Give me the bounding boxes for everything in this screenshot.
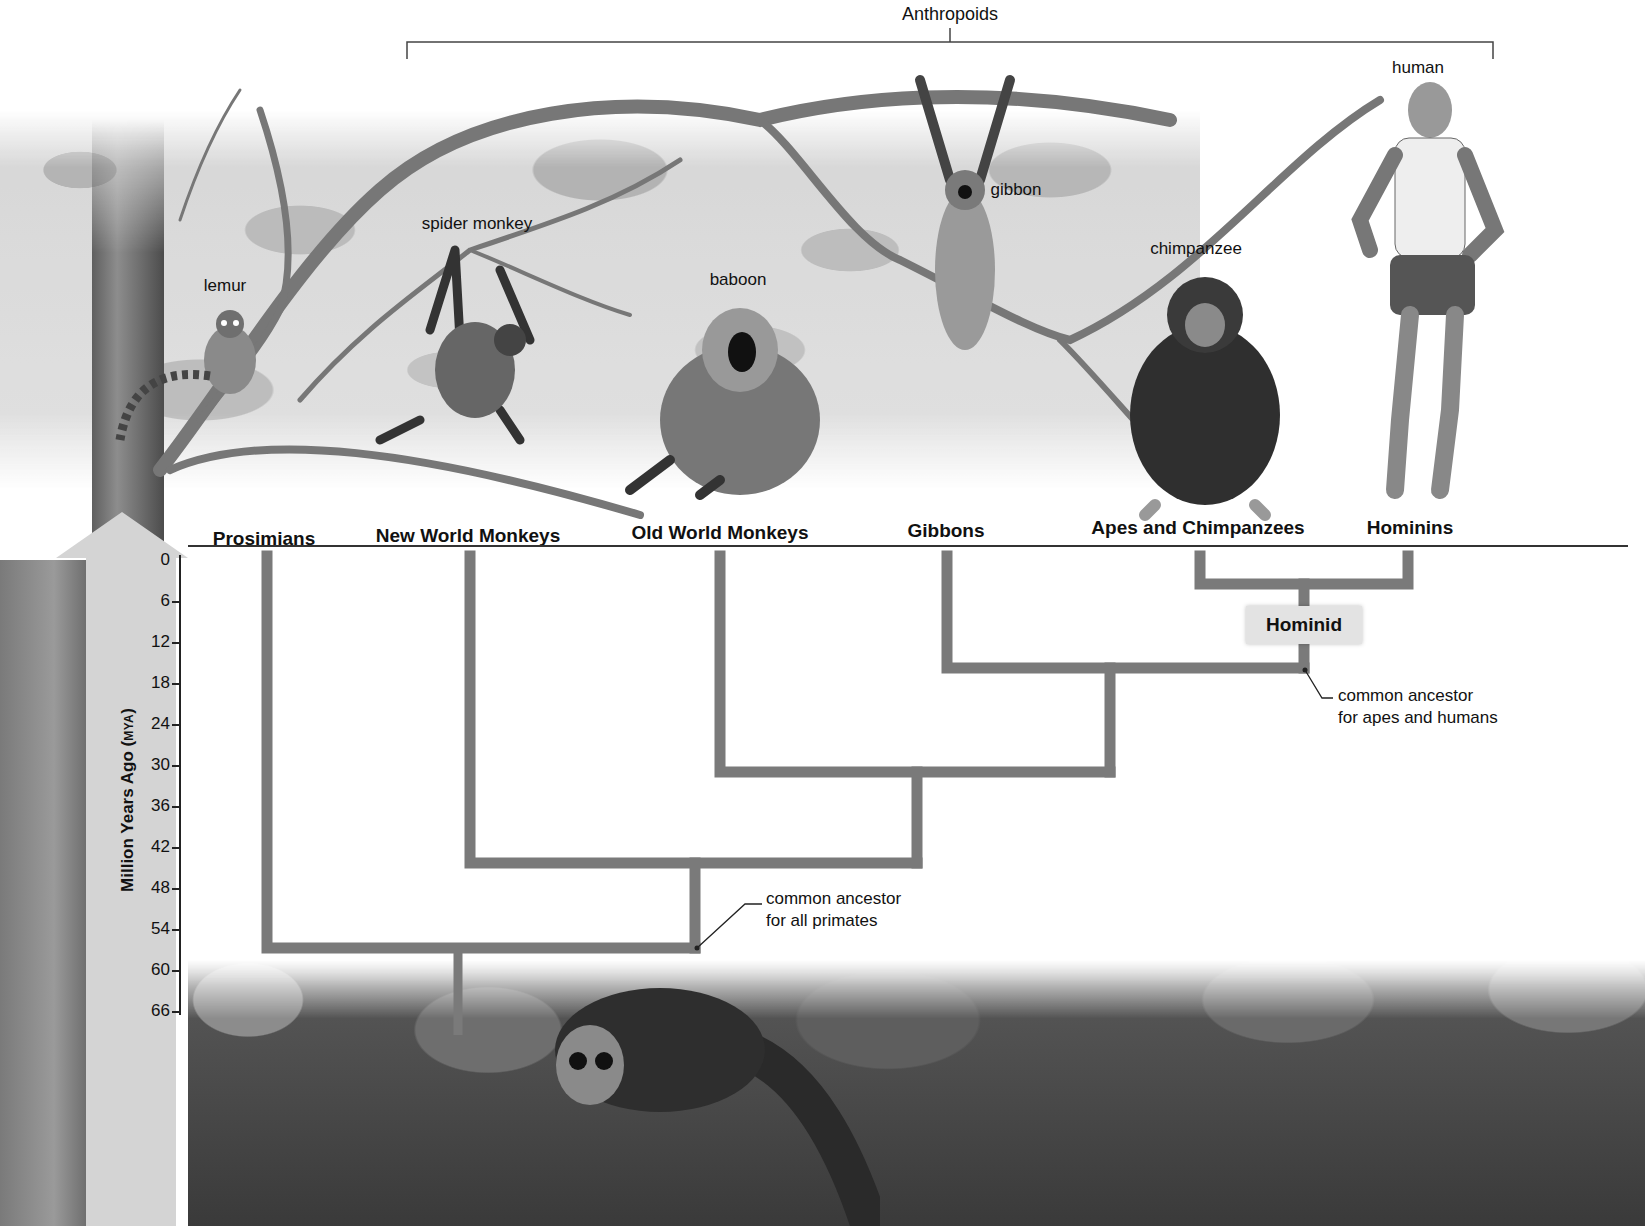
baboon-label: baboon xyxy=(710,270,767,290)
taxon-header-new-world-monkeys: New World Monkeys xyxy=(376,525,560,547)
spider-monkey-label: spider monkey xyxy=(422,214,533,234)
tick-label: 18 xyxy=(151,674,170,692)
all-primates-ancestor-annotation: common ancestor for all primates xyxy=(766,888,901,932)
annotation-line: for all primates xyxy=(766,910,901,932)
ancestral-primate-illustration xyxy=(550,975,880,1226)
tick-mark xyxy=(172,683,180,685)
tick-label: 30 xyxy=(151,756,170,774)
taxon-header-apes-and-chimpanzees: Apes and Chimpanzees xyxy=(1091,517,1304,539)
axis-tick: 66 xyxy=(150,1002,180,1020)
anthropoids-clade-label: Anthropoids xyxy=(902,4,998,25)
taxon-header-old-world-monkeys: Old World Monkeys xyxy=(631,522,808,544)
tick-mark xyxy=(172,1011,180,1013)
human-label: human xyxy=(1392,58,1444,78)
axis-tick: 48 xyxy=(150,879,180,897)
tick-label: 60 xyxy=(151,961,170,979)
annotation-line: common ancestor xyxy=(1338,685,1498,707)
chimpanzee-label: chimpanzee xyxy=(1150,239,1242,259)
hominid-label-box: Hominid xyxy=(1246,606,1362,644)
time-axis-line xyxy=(179,555,181,1015)
axis-tick: 42 xyxy=(150,838,180,856)
tick-label: 54 xyxy=(151,920,170,938)
taxon-header-prosimians: Prosimians xyxy=(213,528,315,550)
chart-panel xyxy=(181,546,1645,986)
taxon-header-hominins: Hominins xyxy=(1367,517,1454,539)
lemur-label: lemur xyxy=(204,276,247,296)
tick-label: 66 xyxy=(151,1002,170,1020)
axis-tick: 30 xyxy=(150,756,180,774)
tick-label: 12 xyxy=(151,633,170,651)
gibbon-illustration xyxy=(900,70,1040,370)
header-divider-line xyxy=(188,545,1628,547)
tick-mark xyxy=(172,970,180,972)
axis-title-text: Million Years Ago xyxy=(118,751,137,892)
tick-label: 0 xyxy=(161,551,170,569)
tick-mark xyxy=(172,806,180,808)
axis-tick: 18 xyxy=(150,674,180,692)
tick-label: 36 xyxy=(151,797,170,815)
tick-mark xyxy=(172,929,180,931)
lemur-illustration xyxy=(110,310,280,480)
tick-mark xyxy=(172,642,180,644)
axis-tick: 60 xyxy=(150,961,180,979)
axis-tick: 12 xyxy=(150,633,180,651)
tick-mark xyxy=(172,765,180,767)
axis-tick: 24 xyxy=(150,715,180,733)
annotation-line: common ancestor xyxy=(766,888,901,910)
tick-mark xyxy=(172,888,180,890)
tick-label: 48 xyxy=(151,879,170,897)
axis-tick: 54 xyxy=(150,920,180,938)
axis-tick: 36 xyxy=(150,797,180,815)
axis-tick: 6 xyxy=(150,592,180,610)
chimpanzee-illustration xyxy=(1115,265,1295,525)
anthropoids-bracket xyxy=(406,26,1494,60)
axis-title: Million Years Ago (MYA) xyxy=(118,708,138,892)
tick-mark xyxy=(172,847,180,849)
tick-mark xyxy=(172,724,180,726)
tick-label: 24 xyxy=(151,715,170,733)
axis-tick: 0 xyxy=(150,551,180,569)
tick-mark xyxy=(172,601,180,603)
baboon-illustration xyxy=(610,290,830,510)
annotation-line: for apes and humans xyxy=(1338,707,1498,729)
tick-label: 42 xyxy=(151,838,170,856)
axis-unit: MYA xyxy=(122,714,136,741)
spider-monkey-illustration xyxy=(360,230,590,460)
human-illustration xyxy=(1340,80,1520,520)
taxon-header-gibbons: Gibbons xyxy=(907,520,984,542)
apes-humans-ancestor-annotation: common ancestor for apes and humans xyxy=(1338,685,1498,729)
tick-label: 6 xyxy=(161,592,170,610)
gibbon-label: gibbon xyxy=(990,180,1041,200)
ground-bushes-background xyxy=(188,960,1645,1226)
